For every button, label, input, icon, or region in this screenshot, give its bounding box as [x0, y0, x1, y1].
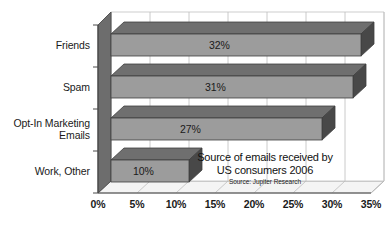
category-label-spam: Spam — [6, 82, 90, 94]
category-label-friends: Friends — [6, 40, 90, 52]
category-label-opt-in-marketing-emails: Opt-In Marketing Emails — [0, 118, 90, 141]
bar-friends — [111, 22, 374, 56]
bar-spam — [111, 64, 366, 98]
x-tick-label-0: 0% — [79, 198, 117, 210]
annotation-line-1: Source of emails received by — [175, 151, 355, 163]
x-tick-label-1: 5% — [118, 198, 156, 210]
y-axis-wall — [98, 12, 111, 193]
x-tick-label-4: 20% — [235, 198, 273, 210]
bar-value-work-other: 10% — [133, 165, 154, 177]
bar-opt-in-marketing-emails — [111, 106, 335, 140]
category-label-work-other: Work, Other — [6, 166, 90, 178]
annotation-source: Source: Jupiter Research — [175, 178, 355, 185]
bar-value-spam: 31% — [205, 81, 226, 93]
annotation-line-2: US consumers 2006 — [175, 164, 355, 176]
bar-value-friends: 32% — [209, 39, 230, 51]
x-tick-label-3: 15% — [196, 198, 234, 210]
x-tick-label-7: 35% — [352, 198, 390, 210]
x-tick-label-2: 10% — [157, 198, 195, 210]
bar-chart: Friends Spam Opt-In Marketing Emails Wor… — [0, 0, 391, 237]
x-tick-label-6: 30% — [313, 198, 351, 210]
y-axis-ticks — [93, 25, 98, 193]
x-tick-label-5: 25% — [274, 198, 312, 210]
bar-value-opt-in-marketing-emails: 27% — [180, 123, 201, 135]
